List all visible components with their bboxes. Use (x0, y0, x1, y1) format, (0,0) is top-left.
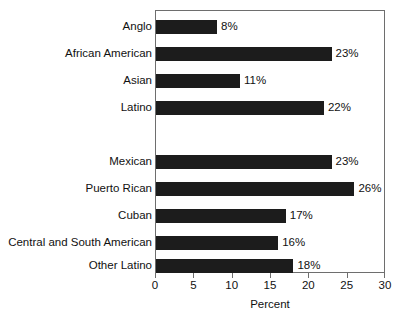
bar-value-label: 26% (354, 183, 381, 195)
x-axis-tick-label: 0 (152, 280, 158, 292)
bar-value-label: 18% (293, 260, 320, 272)
bar-track: 26% (156, 182, 385, 196)
category-label: Central and South American (8, 237, 152, 249)
x-axis-tick-label: 10 (225, 280, 238, 292)
bar-track: 22% (156, 101, 385, 115)
bar (156, 259, 293, 273)
bar-value-label: 22% (324, 102, 351, 114)
bar-value-label: 23% (332, 48, 359, 60)
bar (156, 236, 278, 250)
bar (156, 182, 354, 196)
bar (156, 155, 332, 169)
bar-track: 11% (156, 74, 385, 88)
bar-row: Mexican23% (0, 155, 399, 169)
category-label: Asian (123, 75, 152, 87)
bar (156, 74, 240, 88)
bar-row: Other Latino18% (0, 259, 399, 273)
bar-value-label: 16% (278, 237, 305, 249)
bar-track: 8% (156, 20, 385, 34)
x-axis-title: Percent (155, 299, 385, 311)
bar-row: Latino22% (0, 101, 399, 115)
bar-row: Central and South American16% (0, 236, 399, 250)
category-label: Mexican (109, 156, 152, 168)
x-axis-tick (155, 273, 156, 278)
bar-value-label: 23% (332, 156, 359, 168)
category-label: Anglo (123, 21, 152, 33)
bar-track: 16% (156, 236, 385, 250)
x-axis-tick-label: 25 (340, 280, 353, 292)
bar-row: Cuban17% (0, 209, 399, 223)
x-axis-tick (384, 273, 385, 278)
bar-track: 23% (156, 155, 385, 169)
x-axis-tick-label: 20 (302, 280, 315, 292)
x-axis-tick (308, 273, 309, 278)
bar-row: African American23% (0, 47, 399, 61)
bar-track: 23% (156, 47, 385, 61)
bar (156, 209, 286, 223)
x-axis-tick-label: 5 (190, 280, 196, 292)
bar-value-label: 11% (240, 75, 266, 87)
category-label: Latino (121, 102, 152, 114)
x-axis-tick (232, 273, 233, 278)
x-axis-tick-label: 15 (264, 280, 277, 292)
x-axis: 051015202530 Percent (155, 273, 385, 313)
bar-row: Puerto Rican26% (0, 182, 399, 196)
bar-row: Asian11% (0, 74, 399, 88)
x-axis-tick-label: 30 (379, 280, 392, 292)
bar (156, 20, 217, 34)
bar-track: 18% (156, 259, 385, 273)
category-label: Puerto Rican (86, 183, 152, 195)
category-label: Cuban (118, 210, 152, 222)
category-label: African American (65, 48, 152, 60)
x-axis-tick (347, 273, 348, 278)
bar-value-label: 8% (217, 21, 238, 33)
bar-value-label: 17% (286, 210, 313, 222)
bar-track: 17% (156, 209, 385, 223)
bar-row: Anglo8% (0, 20, 399, 34)
bar (156, 101, 324, 115)
x-axis-tick (193, 273, 194, 278)
category-label: Other Latino (89, 260, 152, 272)
bar (156, 47, 332, 61)
x-axis-tick (270, 273, 271, 278)
bar-chart: Anglo8%African American23%Asian11%Latino… (0, 0, 399, 313)
